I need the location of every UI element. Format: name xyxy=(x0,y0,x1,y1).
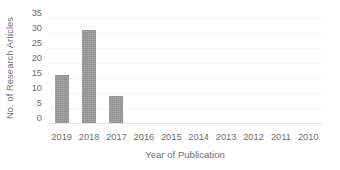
bar-slot xyxy=(267,18,294,123)
x-axis-tick-label: 2015 xyxy=(161,131,182,143)
y-axis-tick-label: 5 xyxy=(22,98,42,108)
bar-slot xyxy=(240,18,267,123)
x-axis-baseline xyxy=(48,123,322,124)
y-axis-tick-label: 25 xyxy=(22,38,42,48)
x-axis-tick-label: 2018 xyxy=(79,131,100,143)
x-axis-tick-label: 2010 xyxy=(298,131,319,143)
y-axis-tick-label: 15 xyxy=(22,68,42,78)
bar-chart-figure: No. of Research Articles 35302520151050 … xyxy=(0,0,340,170)
bar-slot xyxy=(212,18,239,123)
y-axis-title: No. of Research Articles xyxy=(0,6,20,130)
x-axis-tick-labels: 2019201820172016201520142013201220112010 xyxy=(48,131,322,145)
x-axis-tick-label: 2016 xyxy=(134,131,155,143)
y-axis-tick-label: 0 xyxy=(22,113,42,123)
y-axis-tick-label: 10 xyxy=(22,83,42,93)
bar-slot xyxy=(185,18,212,123)
x-axis-tick-label: 2014 xyxy=(188,131,209,143)
bar-slot xyxy=(158,18,185,123)
x-axis-tick-label: 2013 xyxy=(216,131,237,143)
bars-group xyxy=(48,18,322,123)
x-axis-tick-label: 2011 xyxy=(271,131,291,143)
bar-slot xyxy=(48,18,75,123)
bar-slot xyxy=(75,18,102,123)
y-axis-tick-label: 20 xyxy=(22,53,42,63)
x-axis-tick-label: 2017 xyxy=(106,131,127,143)
bar-slot xyxy=(295,18,322,123)
y-axis-tick-label: 30 xyxy=(22,23,42,33)
x-axis-title: Year of Publication xyxy=(48,149,322,160)
y-axis-tick-label: 35 xyxy=(22,8,42,18)
bar-slot xyxy=(103,18,130,123)
bar[interactable] xyxy=(82,30,96,123)
bar[interactable] xyxy=(109,96,123,123)
x-axis-tick-label: 2012 xyxy=(243,131,264,143)
x-axis-tick-label: 2019 xyxy=(51,131,72,143)
bar-slot xyxy=(130,18,157,123)
bar[interactable] xyxy=(55,75,69,123)
y-axis-tick-labels: 35302520151050 xyxy=(22,13,42,123)
y-axis-title-label: No. of Research Articles xyxy=(5,17,15,119)
plot-area xyxy=(48,18,322,123)
